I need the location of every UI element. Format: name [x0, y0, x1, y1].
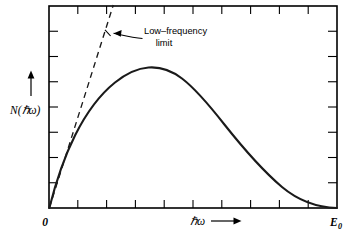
x-tick-label-end-subscript: 0: [338, 222, 342, 231]
x-tick-label-end: E 0: [329, 216, 342, 231]
x-axis-label: ℏω: [190, 215, 205, 227]
annotation-line-1: Low–frequency: [144, 26, 207, 36]
annotation-leader-low-frequency-limit: [105, 30, 143, 39]
figure-container: Low–frequency limit N(ℏω) ℏω 0 E 0: [0, 0, 352, 232]
y-axis-ticks-left: [49, 31, 58, 183]
x-axis-ticks-bottom: [78, 200, 308, 208]
y-axis-arrow-up-icon: [28, 71, 35, 97]
spectral-density-plot: Low–frequency limit N(ℏω) ℏω 0 E 0: [0, 0, 352, 232]
x-tick-label-origin: 0: [42, 216, 48, 228]
x-axis-arrow-right-icon: [211, 218, 242, 225]
x-tick-label-end-symbol: E: [329, 216, 338, 228]
spectrum-curve: [49, 67, 337, 208]
annotation-line-2: limit: [156, 38, 173, 48]
y-axis-label: N(ℏω): [9, 104, 41, 117]
y-axis-ticks-right: [328, 31, 337, 183]
